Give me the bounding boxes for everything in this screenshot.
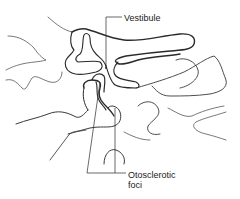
vestibule-point	[105, 67, 107, 69]
contour-top-left	[48, 17, 72, 32]
bold-outer-contour	[72, 29, 194, 64]
footplate	[92, 74, 105, 92]
diagram-canvas: Vestibule Otosclerotic foci	[0, 0, 240, 199]
contour-left-upper	[6, 36, 46, 70]
contour-bottom-left-3	[50, 130, 86, 160]
contour-right-low-2	[194, 112, 226, 140]
otosclerotic-foci-label-line2: foci	[128, 180, 176, 190]
contour-right-blob	[136, 56, 226, 96]
contour-left-lower	[6, 72, 62, 89]
inner-loop	[65, 32, 106, 74]
middle-ear-wall	[83, 88, 88, 110]
contour-bottom-left-1	[16, 110, 88, 124]
otosclerotic-focus-arc	[104, 150, 125, 164]
ear-anatomy-drawing	[0, 0, 240, 199]
contour-right-low-3	[124, 132, 150, 140]
otosclerotic-foci-label-line1: Otosclerotic	[128, 170, 176, 180]
contour-right-mid	[176, 59, 198, 88]
vestibule-chamber	[106, 62, 139, 88]
vestibule-leader-line	[106, 17, 122, 68]
contour-s-curve	[138, 102, 160, 135]
vestibule-label: Vestibule	[124, 13, 161, 23]
otosclerotic-foci-label: Otosclerotic foci	[128, 170, 176, 190]
